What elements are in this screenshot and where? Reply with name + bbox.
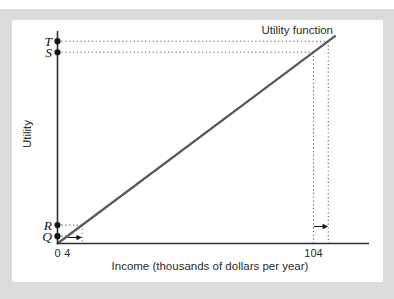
utility-function-line [58,36,336,244]
axis-dot-Q [54,233,60,239]
axis-dot-T [54,38,60,44]
utility-chart: Utility function Utility Income (thousan… [0,0,394,299]
x-axis-title: Income (thousands of dollars per year) [112,260,309,272]
figure: Utility function Utility Income (thousan… [0,0,394,299]
increment-arrow-head-right [323,224,329,229]
axis-dot-R [54,222,60,228]
point-label-Q: Q [42,229,52,244]
tick-and-point-labels-layer: TSRQ04104 [42,34,322,259]
chart-geometry-layer [54,31,369,244]
point-label-S: S [45,45,52,60]
x-tick-label-0: 0 [54,247,60,259]
axis-dot-S [54,49,60,55]
x-tick-label-104: 104 [304,247,322,259]
y-axis-title: Utility [21,120,33,148]
utility-function-label: Utility function [261,24,333,36]
increment-arrow-head-left [76,235,82,240]
x-tick-label-4: 4 [64,247,70,259]
